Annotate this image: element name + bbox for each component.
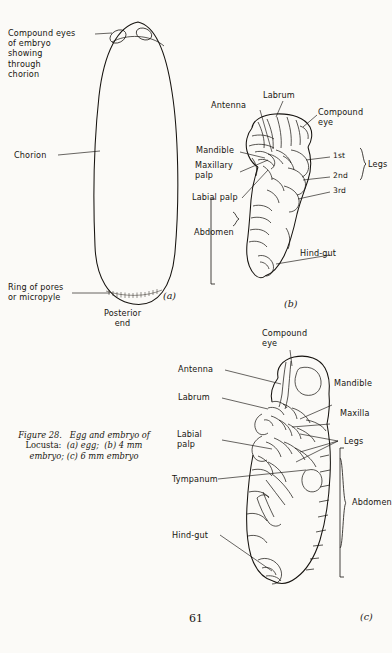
panel-c-leader-lines xyxy=(218,350,338,571)
label-c-hind-gut: Hind-gut xyxy=(172,530,208,540)
caption-item-a: (a) egg; xyxy=(67,440,99,450)
label-b-labial-palp: Labial palp xyxy=(192,192,238,202)
label-c-abdomen: Abdomen xyxy=(352,497,392,507)
label-c-mandible: Mandible xyxy=(334,378,372,388)
page-number: 61 xyxy=(0,612,392,625)
micropyle-ring-hatching xyxy=(106,289,162,298)
figure-caption: Figure 28. Egg and embryo ofLocusta: (a)… xyxy=(8,430,160,461)
label-ring-of-pores-micropyle: Ring of pores or micropyle xyxy=(8,282,63,302)
panel-b-legs-brace xyxy=(360,148,366,180)
label-b-legs: Legs xyxy=(368,159,387,169)
figure-artwork xyxy=(0,0,392,653)
label-chorion: Chorion xyxy=(14,150,46,160)
panel-c-abdomen-brace xyxy=(340,448,346,577)
label-c-tympanum: Tympanum xyxy=(172,474,218,484)
embryo-c-outline-group xyxy=(247,356,331,584)
label-b-labrum: Labrum xyxy=(263,90,295,100)
panel-b-abdomen-bracket xyxy=(211,199,239,284)
caption-figure-number: Figure 28. xyxy=(18,430,62,440)
label-b-compound-eye: Compound eye xyxy=(318,107,363,127)
label-b-hind-gut: Hind-gut xyxy=(300,248,336,258)
panel-tag-a: (a) xyxy=(163,290,176,301)
label-compound-eyes-of-embryo: Compound eyes of embryo showing through … xyxy=(8,28,75,79)
label-c-legs: Legs xyxy=(344,436,363,446)
label-c-antenna: Antenna xyxy=(178,364,213,374)
label-b-leg-1st: 1st xyxy=(333,151,345,161)
egg-outline-group xyxy=(94,22,178,304)
label-b-maxillary-palp: Maxillary palp xyxy=(195,160,233,180)
label-c-labrum: Labrum xyxy=(178,392,210,402)
label-b-mandible: Mandible xyxy=(196,145,234,155)
panel-tag-b: (b) xyxy=(284,298,298,309)
caption-species: Locusta: xyxy=(26,440,62,450)
label-c-maxilla: Maxilla xyxy=(340,408,370,418)
label-c-compound-eye: Compound eye xyxy=(262,328,307,348)
label-c-labial-palp: Labial palp xyxy=(177,429,202,449)
caption-item-c: embryo; (c) 6 mm embryo xyxy=(30,451,139,461)
label-b-abdomen: Abdomen xyxy=(194,227,234,237)
label-b-leg-3rd: 3rd xyxy=(333,186,346,196)
label-b-antenna: Antenna xyxy=(211,100,246,110)
caption-title: Egg and embryo of xyxy=(70,430,150,440)
caption-item-b: (b) 4 mm xyxy=(104,440,142,450)
label-b-leg-2nd: 2nd xyxy=(333,171,348,181)
figure-page: Compound eyes of embryo showing through … xyxy=(0,0,392,653)
label-posterior-end: Posterior end xyxy=(104,308,141,328)
